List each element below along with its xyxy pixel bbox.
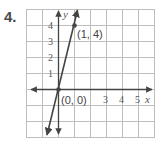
origin-point (56, 87, 61, 92)
y-tick-1: 1 (48, 68, 53, 79)
y-tick-2: 2 (48, 52, 53, 63)
y-tick-4: 4 (48, 20, 53, 31)
x-axis-label: x (144, 93, 150, 105)
y-axis-label: y (62, 8, 68, 20)
x-tick-5: 5 (135, 94, 140, 105)
y-tick-3: 3 (48, 36, 53, 47)
coordinate-graph: 4 3 2 1 3 4 5 x y (0, 0) (1, 4) (0, 0, 161, 141)
x-tick-4: 4 (119, 94, 124, 105)
point-label: (1, 4) (77, 28, 103, 40)
x-tick-3: 3 (103, 94, 108, 105)
origin-label: (0, 0) (61, 94, 87, 106)
